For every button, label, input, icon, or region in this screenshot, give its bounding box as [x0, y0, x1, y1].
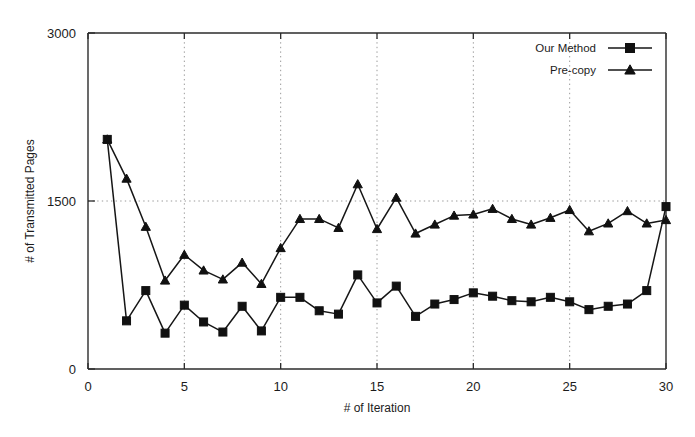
data-point-marker-square	[219, 328, 227, 336]
data-point-marker-square	[392, 282, 400, 290]
data-point-marker-square	[334, 310, 342, 318]
x-tick-label: 30	[659, 379, 673, 394]
data-point-marker-square	[662, 203, 670, 211]
x-tick-label: 20	[466, 379, 480, 394]
y-tick-label: 3000	[47, 26, 76, 41]
x-tick-label: 15	[370, 379, 384, 394]
x-tick-label: 25	[562, 379, 576, 394]
data-point-marker-square	[527, 298, 535, 306]
legend-label-1: Pre-copy	[550, 64, 596, 76]
data-point-marker-square	[566, 298, 574, 306]
data-point-marker-square	[142, 287, 150, 295]
data-point-marker-square	[508, 297, 516, 305]
data-point-marker-square	[604, 302, 612, 310]
data-point-marker-square	[643, 287, 651, 295]
data-point-marker-square	[626, 44, 635, 53]
line-chart: 051015202530 015003000 Our MethodPre-cop…	[0, 0, 695, 437]
data-point-marker-square	[354, 271, 362, 279]
y-tick-label: 0	[69, 362, 76, 377]
x-tick-label: 10	[273, 379, 287, 394]
y-tick-label: 1500	[47, 194, 76, 209]
y-axis-title: # of Transmitted Pages	[23, 139, 37, 262]
data-point-marker-square	[180, 301, 188, 309]
data-point-marker-square	[489, 292, 497, 300]
data-point-marker-square	[585, 306, 593, 314]
data-point-marker-square	[296, 293, 304, 301]
data-point-marker-square	[431, 300, 439, 308]
data-point-marker-square	[123, 317, 131, 325]
data-point-marker-square	[546, 293, 554, 301]
x-tick-label: 0	[84, 379, 91, 394]
legend-label-0: Our Method	[535, 42, 596, 54]
data-point-marker-square	[277, 293, 285, 301]
data-point-marker-square	[623, 300, 631, 308]
data-point-marker-square	[200, 318, 208, 326]
data-point-marker-square	[469, 289, 477, 297]
data-point-marker-square	[315, 307, 323, 315]
data-point-marker-square	[161, 329, 169, 337]
data-point-marker-square	[257, 327, 265, 335]
data-point-marker-square	[373, 299, 381, 307]
chart-figure: 051015202530 015003000 Our MethodPre-cop…	[0, 0, 695, 437]
x-tick-label: 5	[181, 379, 188, 394]
data-point-marker-square	[450, 296, 458, 304]
data-point-marker-square	[238, 302, 246, 310]
data-point-marker-square	[412, 312, 420, 320]
x-axis-title: # of Iteration	[344, 401, 411, 415]
